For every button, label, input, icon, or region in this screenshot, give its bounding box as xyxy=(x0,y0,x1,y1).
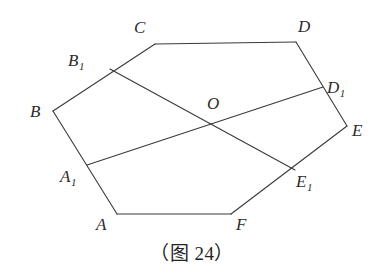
vertex-label-B: B xyxy=(30,103,40,120)
vertex-label-E1: E1 xyxy=(296,173,312,190)
side-EF xyxy=(231,126,347,214)
vertex-label-A: A xyxy=(96,216,106,233)
chord-B1E1 xyxy=(110,69,295,170)
vertex-label-O: O xyxy=(207,95,219,112)
vertex-label-D: D xyxy=(298,18,310,35)
vertex-label-F: F xyxy=(236,216,246,233)
geometry-diagram xyxy=(0,0,384,276)
vertex-label-A1: A1 xyxy=(60,168,76,185)
side-CD xyxy=(155,42,296,44)
chord-A1D1 xyxy=(87,87,323,165)
vertex-label-C: C xyxy=(134,19,145,36)
vertex-label-E: E xyxy=(352,122,362,139)
side-AB xyxy=(53,111,117,214)
vertex-label-D1: D1 xyxy=(327,79,345,96)
vertex-label-B1: B1 xyxy=(68,52,84,69)
figure-caption: （图 24） xyxy=(0,238,384,265)
figure-24-container: ABCDEFA1B1D1E1O （图 24） xyxy=(0,0,384,276)
